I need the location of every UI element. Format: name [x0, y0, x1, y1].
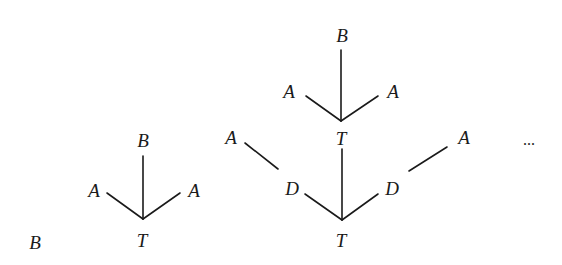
tree-edge — [245, 143, 278, 169]
node-label-a: A — [225, 128, 237, 147]
tree-edge — [341, 96, 378, 121]
node-label-a: A — [283, 82, 295, 101]
tree-edge — [107, 193, 143, 219]
node-label-b: B — [336, 26, 348, 45]
node-label-a: A — [387, 82, 399, 101]
tree-edge — [306, 96, 341, 121]
tree-edge — [143, 193, 180, 219]
node-label-b: B — [137, 131, 149, 150]
tree-sequence-diagram: BTBAATDDAATAAB ... — [0, 0, 562, 265]
node-label-a: A — [458, 128, 470, 147]
node-label-d: D — [385, 179, 399, 198]
node-label-a: A — [188, 181, 200, 200]
node-label-a: A — [88, 181, 100, 200]
node-label-t: T — [336, 129, 347, 148]
tree-edge — [409, 147, 447, 171]
tree-edge — [342, 194, 378, 220]
node-label-t: T — [336, 231, 347, 250]
node-label-t: T — [137, 231, 148, 250]
node-label-b: B — [29, 233, 41, 252]
continuation-ellipsis: ... — [523, 132, 535, 148]
tree-edge — [305, 194, 342, 220]
edges-layer — [0, 0, 562, 265]
node-label-d: D — [285, 179, 299, 198]
